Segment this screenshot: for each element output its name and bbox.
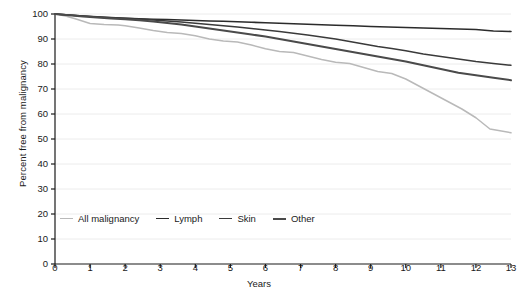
survival-curve-chart: Percent free from malignancy Years 01020… [0, 0, 518, 297]
legend-label: Lymph [174, 213, 202, 224]
legend-line-swatch [273, 218, 286, 220]
legend-label: Other [291, 213, 315, 224]
series-line [55, 14, 511, 32]
chart-legend: All malignancyLymphSkinOther [60, 213, 332, 224]
legend-item[interactable]: Skin [219, 213, 255, 224]
legend-line-swatch [219, 218, 232, 219]
plot-area [0, 0, 518, 297]
legend-line-swatch [60, 218, 73, 219]
legend-item[interactable]: Lymph [156, 213, 202, 224]
legend-line-swatch [156, 218, 169, 219]
legend-item[interactable]: Other [273, 213, 315, 224]
legend-label: All malignancy [78, 213, 139, 224]
legend-item[interactable]: All malignancy [60, 213, 139, 224]
legend-label: Skin [237, 213, 255, 224]
